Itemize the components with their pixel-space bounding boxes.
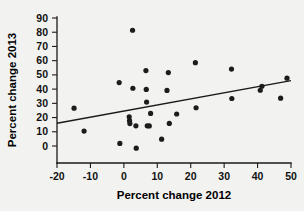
data-point: [147, 123, 152, 128]
data-point: [166, 70, 171, 75]
x-tick-label: 40: [252, 170, 264, 182]
y-tick-label: 50: [36, 68, 48, 80]
x-tick-label: -10: [83, 170, 98, 182]
data-point: [117, 141, 122, 146]
data-point: [71, 106, 76, 111]
data-point: [127, 121, 132, 126]
data-point: [284, 76, 289, 81]
data-point: [164, 88, 169, 93]
data-point: [144, 87, 149, 92]
data-point: [229, 96, 234, 101]
data-point: [174, 111, 179, 116]
data-point: [229, 66, 234, 71]
y-tick-label: 80: [36, 26, 48, 38]
chart-canvas: 0102030405060708090 -20-1001020304050 Pe…: [0, 0, 304, 211]
data-point: [148, 111, 153, 116]
data-point: [278, 96, 283, 101]
data-point: [143, 68, 148, 73]
data-point: [133, 123, 138, 128]
x-tick-label: -20: [49, 170, 64, 182]
x-tick-label: 30: [218, 170, 230, 182]
y-tick-label: 70: [36, 40, 48, 52]
x-tick-label: 0: [121, 170, 127, 182]
data-point: [117, 80, 122, 85]
data-point: [130, 86, 135, 91]
x-tick-label: 50: [285, 170, 297, 182]
y-tick-label: 90: [36, 12, 48, 24]
data-point: [193, 60, 198, 65]
data-point: [134, 146, 139, 151]
y-tick-label: 60: [36, 54, 48, 66]
x-axis-title: Percent change 2012: [117, 189, 231, 201]
y-tick-label: 10: [36, 125, 48, 137]
x-tick-label: 10: [151, 170, 163, 182]
data-point: [193, 105, 198, 110]
data-point: [167, 121, 172, 126]
data-point: [159, 137, 164, 142]
y-tick-label: 30: [36, 97, 48, 109]
y-tick-label: 40: [36, 83, 48, 95]
data-point: [144, 99, 149, 104]
x-tick-label: 20: [185, 170, 197, 182]
y-axis-title: Percent change 2013: [6, 33, 18, 147]
data-point: [130, 28, 135, 33]
scatter-plot-figure: 0102030405060708090 -20-1001020304050 Pe…: [0, 0, 304, 211]
data-point: [81, 128, 86, 133]
y-tick-label: 0: [42, 140, 48, 152]
y-tick-label: 20: [36, 111, 48, 123]
